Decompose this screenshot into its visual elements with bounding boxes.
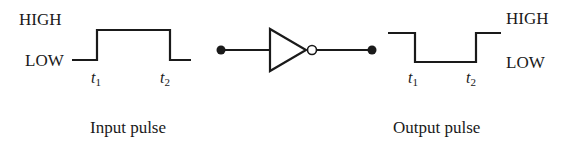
output-terminal-dot — [368, 46, 377, 55]
input-pulse-waveform — [72, 30, 191, 60]
output-pulse-waveform — [388, 33, 501, 62]
output-pulse-group: HIGH LOW t1 t2 Output pulse — [388, 9, 549, 137]
input-t1-label: t1 — [91, 69, 101, 88]
output-pulse-caption: Output pulse — [393, 118, 480, 137]
output-low-label: LOW — [506, 53, 546, 72]
input-high-label: HIGH — [19, 10, 62, 29]
inverter-group — [217, 29, 377, 71]
output-t1-label: t1 — [408, 69, 418, 88]
input-t2-label: t2 — [160, 69, 170, 88]
diagram-canvas: HIGH LOW t1 t2 Input pulse HIGH LOW t1 t… — [0, 0, 567, 144]
input-low-label: LOW — [25, 51, 65, 70]
inverter-pulse-diagram: HIGH LOW t1 t2 Input pulse HIGH LOW t1 t… — [0, 0, 567, 144]
output-high-label: HIGH — [506, 9, 549, 28]
input-pulse-caption: Input pulse — [90, 118, 166, 137]
input-pulse-group: HIGH LOW t1 t2 Input pulse — [19, 10, 191, 137]
inversion-bubble-icon — [308, 46, 317, 55]
output-t2-label: t2 — [466, 69, 476, 88]
inverter-triangle-icon — [270, 29, 306, 71]
